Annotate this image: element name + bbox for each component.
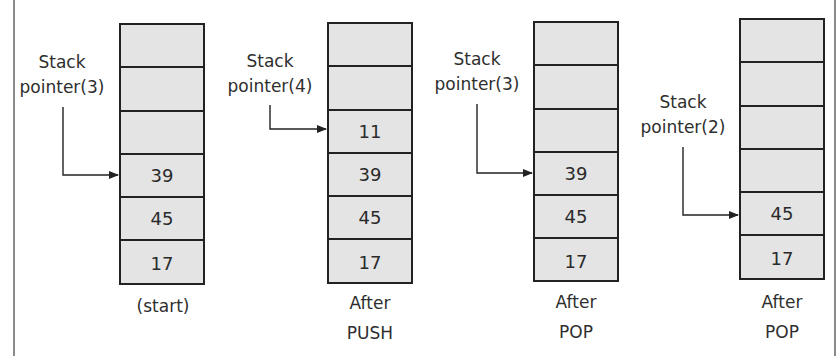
arrow-icon	[63, 104, 738, 215]
pointer-arrows	[0, 0, 839, 356]
